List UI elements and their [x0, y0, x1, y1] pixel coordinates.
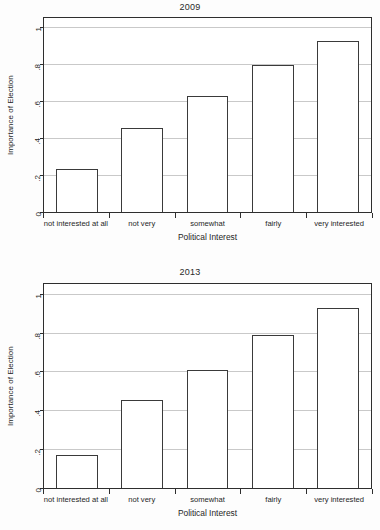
bar-slot — [109, 18, 174, 212]
chart-title-2009: 2009 — [0, 2, 380, 12]
y-tick-label: 1 — [34, 27, 43, 31]
bar — [187, 370, 229, 488]
y-tick-label: .8 — [34, 64, 43, 71]
bar-slot — [175, 18, 240, 212]
y-tick-label: .4 — [34, 138, 43, 145]
bar-slot — [306, 18, 371, 212]
y-axis-title-2013: Importance of Election — [6, 283, 15, 489]
chart-title-2013: 2013 — [0, 267, 380, 277]
chart-panel-2009: 2009 Importance of Election 0.2.4.6.81 n… — [0, 0, 380, 265]
bar — [56, 169, 98, 212]
x-category-label: very interested — [306, 219, 372, 228]
y-axis-title-2009: Importance of Election — [6, 17, 15, 213]
plot-area-2009: 0.2.4.6.81 — [43, 17, 372, 213]
y-tick-label: .6 — [34, 371, 43, 378]
bar-series-2009 — [44, 18, 371, 212]
bar-series-2013 — [44, 284, 371, 488]
x-category-label: not very — [109, 495, 175, 504]
y-tick-label: 1 — [34, 294, 43, 298]
x-axis-title-2013: Political Interest — [43, 508, 372, 518]
y-tick-label: .8 — [34, 333, 43, 340]
x-tick-row-2013 — [43, 489, 372, 494]
x-category-label: somewhat — [175, 495, 241, 504]
bar — [252, 335, 294, 488]
plot-area-2013: 0.2.4.6.81 — [43, 283, 372, 489]
x-category-label: somewhat — [175, 219, 241, 228]
y-tick-label: .2 — [34, 175, 43, 182]
x-category-labels-2013: not interested at allnot verysomewhatfai… — [43, 495, 372, 504]
x-category-label: not interested at all — [43, 219, 109, 228]
bar — [252, 65, 294, 212]
bar-slot — [240, 18, 305, 212]
bar-slot — [175, 284, 240, 488]
x-category-labels-2009: not interested at allnot verysomewhatfai… — [43, 219, 372, 228]
x-category-label: very interested — [306, 495, 372, 504]
x-category-label: not interested at all — [43, 495, 109, 504]
y-tick-label: .2 — [34, 449, 43, 456]
y-tick-label: 0 — [34, 488, 43, 492]
bar — [121, 128, 163, 212]
x-axis-title-2009: Political Interest — [43, 232, 372, 242]
x-category-label: not very — [109, 219, 175, 228]
bar-slot — [44, 284, 109, 488]
bar — [317, 41, 359, 212]
x-tick-row-2009 — [43, 213, 372, 218]
x-category-label: fairly — [240, 495, 306, 504]
bar — [56, 455, 98, 488]
bar-slot — [109, 284, 174, 488]
y-tick-label: .6 — [34, 101, 43, 108]
bar-slot — [306, 284, 371, 488]
x-category-label: fairly — [240, 219, 306, 228]
y-tick-label: 0 — [34, 212, 43, 216]
bar-slot — [44, 18, 109, 212]
y-tick-label: .4 — [34, 410, 43, 417]
bar — [121, 400, 163, 488]
chart-panel-2013: 2013 Importance of Election 0.2.4.6.81 n… — [0, 265, 380, 530]
bar — [187, 96, 229, 212]
bar — [317, 308, 359, 488]
bar-slot — [240, 284, 305, 488]
figure-sheet: 2009 Importance of Election 0.2.4.6.81 n… — [0, 0, 380, 530]
